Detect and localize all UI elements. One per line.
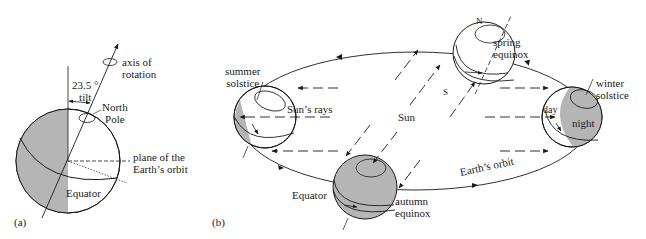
night-label: night [572, 117, 595, 129]
winter-line1: winter [596, 77, 629, 89]
orbit-plane-label: plane of the Earth’s orbit [133, 151, 188, 175]
axis-label-line2: rotation [122, 68, 156, 80]
spring-line2: equinox [493, 48, 528, 60]
tilt-label-line1: 23.5 ° [72, 79, 98, 91]
panel-b-tag: (b) [212, 216, 225, 228]
autumn-equinox-label: autumn equinox [395, 195, 430, 219]
earth-summer-solstice [230, 82, 296, 158]
sun-label: Sun [398, 111, 415, 123]
spring-line1: spring [493, 36, 528, 48]
earth-autumn-equinox [333, 155, 397, 230]
seasons-diagram [0, 0, 646, 239]
autumn-line2: equinox [395, 207, 430, 219]
north-pole-label: North Pole [102, 101, 128, 125]
summer-line2: solstice [225, 77, 260, 89]
spring-equinox-label: spring equinox [493, 36, 528, 60]
sun-rays-label: Sun’s rays [287, 103, 333, 115]
equator-label-b: Equator [292, 189, 327, 201]
orbit-plane-line2: Earth’s orbit [133, 163, 188, 175]
south-marker-label: S [443, 86, 448, 98]
north-pole-line1: North [102, 101, 128, 113]
winter-line2: solstice [596, 89, 629, 101]
north-marker-label: N [476, 15, 483, 27]
axis-of-rotation-label: axis of rotation [122, 56, 156, 80]
autumn-line1: autumn [395, 195, 430, 207]
north-pole-line2: Pole [102, 113, 128, 125]
tilt-label: 23.5 ° tilt [72, 79, 98, 103]
day-label: day [543, 104, 557, 116]
summer-line1: summer [225, 65, 260, 77]
axis-label-line1: axis of [122, 56, 156, 68]
summer-solstice-label: summer solstice [225, 65, 260, 89]
orbit-plane-line1: plane of the [133, 151, 188, 163]
winter-solstice-label: winter solstice [596, 77, 629, 101]
tilt-label-line2: tilt [72, 91, 98, 103]
panel-a-tag: (a) [14, 216, 26, 228]
equator-label-a: Equator [66, 187, 101, 199]
